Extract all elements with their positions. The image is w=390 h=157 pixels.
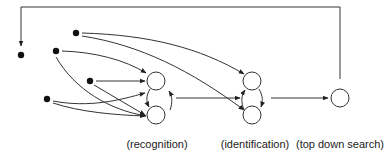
input-dot-c — [53, 48, 59, 54]
top-down-search-label: (top down search) — [296, 138, 384, 150]
network-diagram — [0, 0, 390, 157]
edge-b-id-bottom — [82, 36, 244, 110]
feedback-line — [21, 7, 340, 79]
id-loop-down — [259, 89, 262, 107]
edge-b-id-top — [82, 33, 244, 74]
identification-node-bottom — [243, 106, 261, 124]
rec-loop-down — [147, 89, 150, 107]
recognition-label: (recognition) — [126, 138, 187, 150]
recognition-node-top — [147, 72, 165, 90]
id-loop-up — [242, 90, 245, 110]
input-dot-d — [87, 78, 93, 84]
recognition-node-bottom — [147, 106, 165, 124]
identification-node-top — [243, 72, 261, 90]
input-dot-b — [73, 30, 79, 36]
edge-c-rec-top — [62, 51, 146, 73]
diagram-canvas: (recognition) (identification) (top down… — [0, 0, 390, 157]
edge-e-rec-top — [53, 93, 145, 104]
edge-d-rec-bottom — [94, 85, 145, 115]
search-node — [331, 89, 349, 107]
rec-loop-up — [169, 91, 172, 110]
identification-label: (identification) — [221, 138, 289, 150]
input-dot-e — [44, 96, 50, 102]
edge-e-rec-bottom — [53, 103, 145, 116]
input-dot-a — [18, 52, 24, 58]
